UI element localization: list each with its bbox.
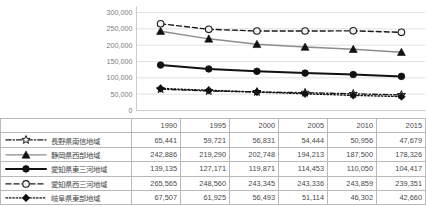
- table-cell-value: 239,351: [377, 176, 426, 190]
- plot-area: 300,000250,000200,000150,000100,00050,00…: [0, 0, 426, 124]
- table-cell-value: 46,302: [328, 190, 377, 204]
- table-cell-value: 187,500: [328, 147, 377, 161]
- legend-entry: 愛知県東三河地域: [1, 162, 128, 175]
- table-row: 長野県南信地域65,44159,72156,83154,44450,95647,…: [1, 133, 426, 147]
- table-cell-value: 202,748: [230, 147, 279, 161]
- table-cell-value: 243,336: [279, 176, 328, 190]
- column-header-year: 1995: [181, 119, 230, 133]
- data-point-filled-circle: [302, 70, 309, 77]
- data-point-open-circle: [398, 29, 405, 36]
- table-cell-value: 127,171: [181, 162, 230, 176]
- legend-cell: 岐阜県東部地域: [1, 190, 132, 204]
- legend-series-label: 愛知県東三河地域: [48, 163, 107, 174]
- column-header-year: 2010: [328, 119, 377, 133]
- data-point-filled-circle: [350, 71, 357, 78]
- table-cell-value: 65,441: [132, 133, 181, 147]
- table-cell-value: 47,679: [377, 133, 426, 147]
- series-3: [157, 62, 404, 80]
- data-point-filled-circle: [254, 68, 261, 75]
- column-header-year: 2000: [230, 119, 279, 133]
- y-tick-label: 150,000: [107, 57, 133, 66]
- data-table: 199019952000200520102015長野県南信地域65,44159,…: [0, 118, 426, 205]
- table-cell-value: 114,453: [279, 162, 328, 176]
- legend-entry: 静岡県西部地域: [1, 148, 128, 161]
- series-line: [161, 65, 402, 76]
- legend-series-label: 静岡県西部地域: [48, 149, 100, 160]
- table-cell-value: 67,507: [132, 190, 181, 204]
- data-point-open-circle: [254, 28, 261, 35]
- table-cell-value: 42,660: [377, 190, 426, 204]
- table-cell-value: 242,886: [132, 147, 181, 161]
- legend-entry: 長野県南信地域: [1, 133, 128, 146]
- data-table-wrapper: 199019952000200520102015長野県南信地域65,44159,…: [0, 118, 426, 205]
- table-cell-value: 50,956: [328, 133, 377, 147]
- data-point-open-circle: [205, 26, 212, 33]
- table-cell-value: 56,831: [230, 133, 279, 147]
- data-point-filled-diamond: [22, 194, 30, 202]
- column-header-year: 2015: [377, 119, 426, 133]
- table-cell-value: 59,721: [181, 133, 230, 147]
- table-cell-value: 265,565: [132, 176, 181, 190]
- y-tick-label: 250,000: [107, 24, 133, 33]
- data-point-filled-circle: [205, 66, 212, 73]
- series-line: [161, 24, 402, 33]
- legend-cell: 長野県南信地域: [1, 133, 132, 147]
- table-cell-value: 178,326: [377, 147, 426, 161]
- legend-marker-icon: [4, 162, 48, 175]
- chart-figure: 300,000250,000200,000150,000100,00050,00…: [0, 0, 426, 207]
- y-tick-label: 100,000: [107, 73, 133, 82]
- table-cell-value: 248,560: [181, 176, 230, 190]
- legend-marker-icon: [4, 148, 48, 161]
- series-line: [161, 88, 402, 96]
- table-row: 愛知県東三河地域139,135127,171119,871114,453110,…: [1, 162, 426, 176]
- table-cell-value: 56,493: [230, 190, 279, 204]
- legend-cell: 静岡県西部地域: [1, 147, 132, 161]
- series-5: [157, 85, 405, 101]
- legend-cell: 愛知県西三河地域: [1, 176, 132, 190]
- table-corner-cell: [1, 119, 132, 133]
- legend-key-filled-triangle: [4, 148, 48, 161]
- table-row: 岐阜県東部地域67,50761,92556,49351,11446,30242,…: [1, 190, 426, 204]
- data-point-open-circle: [23, 180, 30, 187]
- table-header-row: 199019952000200520102015: [1, 119, 426, 133]
- table-cell-value: 194,213: [279, 147, 328, 161]
- data-point-filled-triangle: [157, 27, 165, 34]
- data-point-filled-circle: [157, 62, 164, 69]
- data-point-open-circle: [350, 28, 357, 35]
- data-point-open-circle: [157, 20, 164, 27]
- table-cell-value: 243,345: [230, 176, 279, 190]
- table-row: 静岡県西部地域242,886219,290202,748194,213187,5…: [1, 147, 426, 161]
- legend-key-open-star: [4, 133, 48, 146]
- legend-cell: 愛知県東三河地域: [1, 162, 132, 176]
- table-cell-value: 104,417: [377, 162, 426, 176]
- legend-entry: 愛知県西三河地域: [1, 177, 128, 190]
- table-cell-value: 51,114: [279, 190, 328, 204]
- table-cell-value: 219,290: [181, 147, 230, 161]
- y-axis-tick-labels: 300,000250,000200,000150,000100,00050,00…: [107, 8, 133, 115]
- legend-key-filled-circle: [4, 162, 48, 175]
- legend-marker-icon: [4, 133, 48, 146]
- y-tick-label: 50,000: [111, 90, 133, 99]
- legend-entry: 岐阜県東部地域: [1, 191, 128, 204]
- y-tick-label: 200,000: [107, 41, 133, 50]
- data-point-filled-circle: [23, 166, 30, 173]
- column-header-year: 2005: [279, 119, 328, 133]
- data-series-layer: [156, 20, 405, 100]
- column-header-year: 1990: [132, 119, 181, 133]
- table-cell-value: 110,050: [328, 162, 377, 176]
- data-point-filled-circle: [398, 73, 405, 80]
- legend-series-label: 愛知県西三河地域: [48, 178, 107, 189]
- data-point-open-circle: [302, 28, 309, 35]
- legend-marker-icon: [4, 177, 48, 190]
- data-point-open-star: [22, 136, 30, 144]
- table-cell-value: 61,925: [181, 190, 230, 204]
- table-cell-value: 139,135: [132, 162, 181, 176]
- line-chart-svg: 300,000250,000200,000150,000100,00050,00…: [0, 0, 426, 124]
- y-tick-label: 0: [129, 106, 133, 115]
- series-4: [157, 20, 404, 35]
- series-line: [161, 31, 402, 52]
- legend-key-filled-diamond: [4, 191, 48, 204]
- legend-series-label: 長野県南信地域: [48, 135, 100, 146]
- table-cell-value: 119,871: [230, 162, 279, 176]
- legend-series-label: 岐阜県東部地域: [48, 192, 100, 203]
